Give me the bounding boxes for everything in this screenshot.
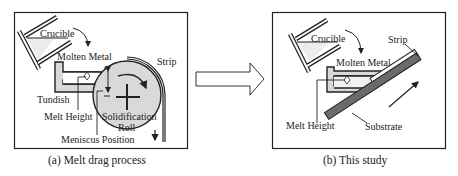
label-strip: Strip	[157, 56, 176, 67]
label-strip: Strip	[388, 34, 407, 45]
label-melt-height: Melt Height	[44, 111, 93, 122]
caption-a: (a) Melt drag process	[48, 154, 147, 167]
figure-canvas: Crucible Molten Metal Strip Tundish Melt…	[0, 0, 458, 176]
label-crucible: Crucible	[311, 33, 346, 44]
label-melt-height: Melt Height	[286, 120, 335, 131]
label-substrate: Substrate	[365, 121, 403, 132]
label-crucible: Crucible	[40, 28, 75, 39]
label-meniscus-position: Meniscus Position	[61, 134, 135, 145]
label-tundish: Tundish	[37, 94, 69, 105]
panel-b: Crucible Molten Metal Strip Melt Height …	[273, 13, 446, 168]
label-molten-metal: Molten Metal	[336, 57, 391, 68]
caption-b: (b) This study	[323, 154, 388, 167]
label-molten-metal: Molten Metal	[57, 51, 112, 62]
panel-a: Crucible Molten Metal Strip Tundish Melt…	[15, 13, 188, 168]
label-roll: Roll	[118, 122, 135, 133]
label-solidification: Solidification	[102, 111, 156, 122]
right-arrow-icon	[196, 63, 264, 95]
